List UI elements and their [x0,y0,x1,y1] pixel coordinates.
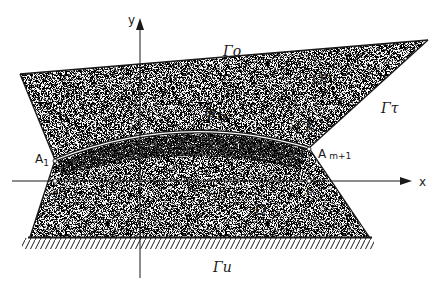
label-gamma-u: Γu [212,259,232,275]
point-a-marker [53,179,57,183]
y-axis-label: y [128,13,135,27]
label-Am1: Am+1 [318,147,351,161]
point-Am1-marker [307,147,311,151]
label-gamma-o: Γo [222,43,241,59]
point-psi-marker [207,126,211,130]
mark-x: x [205,186,211,197]
x-axis-label: x [419,175,426,189]
point-b-marker [307,179,311,183]
mark-a: a [52,186,58,197]
label-omega-upper: Ω'' [311,71,331,87]
label-omega-lower: Ω' [254,202,270,218]
mark-b: b [306,186,312,197]
y-axis-arrow-icon [136,18,144,30]
ground-hatching [22,238,374,249]
x-axis-arrow-icon [400,177,412,185]
point-A1-marker [53,159,57,163]
label-gamma-k: ΓK [294,119,317,135]
label-gamma-tau: Γτ [380,100,399,116]
label-A1: A1 [35,152,49,168]
domain-diagram: y x a x b Γo Γτ ΓK Γu Ω'' Ω' Ψ(x) A1 Am+… [0,0,441,293]
